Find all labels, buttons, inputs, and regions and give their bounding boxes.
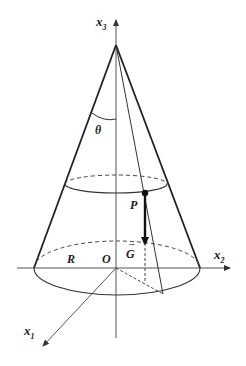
radius-dashed	[116, 268, 163, 294]
cone-left-edge	[34, 45, 116, 268]
x2-label: x2	[213, 247, 225, 265]
O-label: O	[102, 252, 111, 266]
cone-right-edge	[116, 45, 200, 268]
point-P	[142, 190, 148, 196]
x1-axis	[43, 268, 116, 346]
R-label: R	[66, 252, 75, 266]
theta-label: θ	[95, 123, 102, 137]
generatrix-line	[116, 45, 163, 294]
G-label: G	[126, 247, 135, 261]
theta-arc	[92, 113, 116, 120]
x1-label: x1	[23, 323, 35, 341]
base-ellipse-front	[34, 268, 200, 295]
x3-label: x3	[95, 14, 107, 32]
cone-diagram: x3 x2 x1 θ P G → R O	[0, 0, 246, 366]
G-vector-arrow: →	[127, 238, 136, 248]
P-label: P	[130, 198, 138, 212]
base-ellipse-back	[34, 241, 200, 268]
